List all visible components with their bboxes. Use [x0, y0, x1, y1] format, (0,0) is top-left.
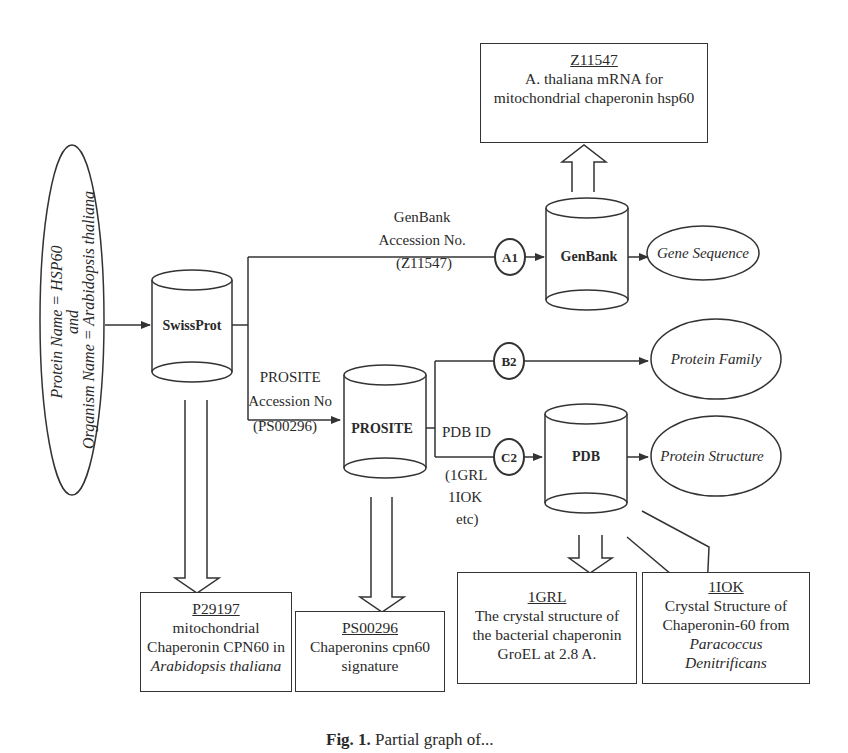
- prosite-link-label: PROSITE Accession No (PS00296): [248, 369, 335, 435]
- hollow-arrow-down: [360, 497, 404, 612]
- record-desc-line: Crystal Structure of: [665, 597, 787, 614]
- node-c2-label: C2: [501, 450, 517, 465]
- node-b2-label: B2: [501, 354, 516, 369]
- record-id[interactable]: PS00296: [296, 618, 444, 637]
- figure-caption-text: Partial graph of...: [375, 730, 494, 749]
- db-swissprot: SwissProt: [163, 318, 222, 333]
- db-prosite: PROSITE: [351, 421, 412, 436]
- record-desc-line: signature: [342, 657, 399, 674]
- record-desc-line: Chaperonins cpn60: [310, 638, 430, 655]
- hollow-arrow-up: [562, 145, 606, 192]
- record-desc-line: The crystal structure of: [475, 607, 619, 624]
- record-p29197: P29197 mitochondrial Chaperonin CPN60 in…: [140, 592, 292, 692]
- output-protein-structure: Protein Structure: [659, 448, 764, 464]
- record-desc-line: A. thaliana mRNA for: [525, 70, 663, 87]
- db-pdb: PDB: [572, 449, 600, 464]
- record-desc-line: Denitrificans: [685, 654, 767, 671]
- record-desc-line: mitochondrial: [173, 619, 260, 636]
- record-desc-line: Chaperonin-60 from: [663, 616, 790, 633]
- record-desc-line: Paracoccus: [689, 635, 762, 652]
- record-1iok: 1IOK Crystal Structure of Chaperonin-60 …: [642, 572, 810, 684]
- record-desc-line: mitochondrial chaperonin hsp60: [494, 89, 695, 106]
- record-desc-line: GroEL at 2.8 A.: [498, 645, 597, 662]
- node-a1-label: A1: [502, 250, 518, 265]
- output-protein-family: Protein Family: [670, 351, 762, 367]
- db-genbank: GenBank: [561, 249, 618, 264]
- record-id[interactable]: Z11547: [481, 50, 707, 69]
- record-id[interactable]: 1IOK: [643, 577, 809, 596]
- hollow-arrow-down: [569, 535, 612, 573]
- figure-caption: Fig. 1. Partial graph of...: [326, 730, 494, 750]
- record-id[interactable]: P29197: [141, 599, 291, 618]
- record-ps00296: PS00296 Chaperonins cpn60 signature: [295, 611, 445, 692]
- genbank-link-label: GenBank Accession No. (Z11547): [378, 209, 469, 272]
- record-id[interactable]: 1GRL: [458, 587, 636, 606]
- record-z11547: Z11547 A. thaliana mRNA for mitochondria…: [480, 43, 708, 143]
- record-desc-line: Chaperonin CPN60 in: [147, 638, 285, 655]
- pdb-link-label: PDB ID (1GRL 1IOK etc): [442, 424, 495, 528]
- output-gene-sequence: Gene Sequence: [657, 245, 749, 261]
- record-desc-line: Arabidopsis thaliana: [151, 657, 281, 674]
- record-1grl: 1GRL The crystal structure of the bacter…: [457, 572, 637, 684]
- record-desc-line: the bacterial chaperonin: [473, 626, 622, 643]
- figure-number: Fig. 1.: [326, 730, 371, 749]
- hollow-arrow-down: [175, 400, 219, 593]
